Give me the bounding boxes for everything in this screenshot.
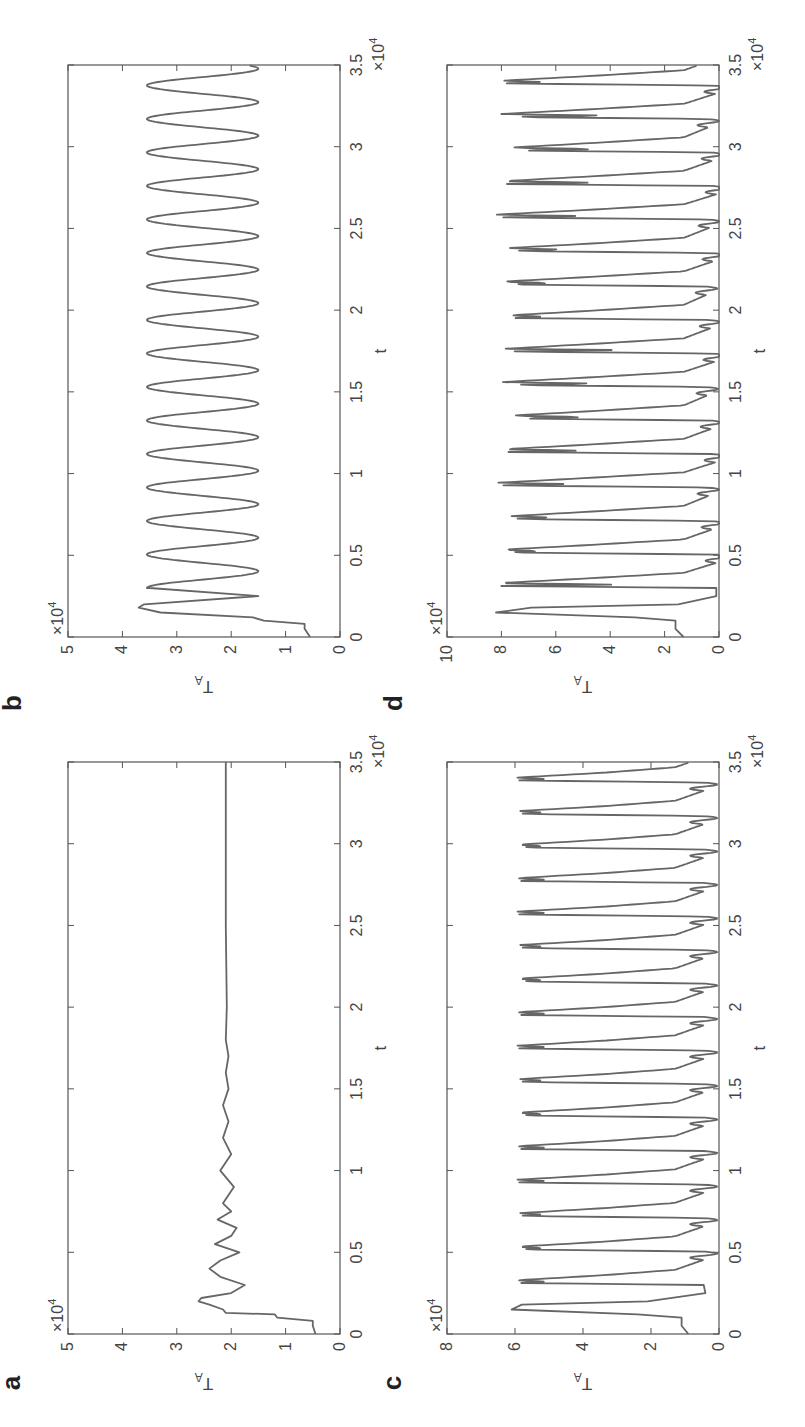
y-tick-label: 5 bbox=[59, 1342, 76, 1351]
x-tick-label: 3 bbox=[348, 839, 365, 848]
y-tick-label: 0 bbox=[331, 645, 348, 654]
chart-panel-d: 00.511.522.533.50246810×104×104tTA bbox=[447, 65, 719, 637]
data-series-line bbox=[496, 66, 719, 637]
y-tick-label: 0 bbox=[331, 1342, 348, 1351]
x-tick-label: 2 bbox=[348, 306, 365, 315]
y-tick-label: 4 bbox=[601, 645, 618, 654]
chart-panel-a: 00.511.522.533.5012345×104×104tTA bbox=[68, 762, 340, 1334]
y-tick-label: 4 bbox=[113, 645, 130, 654]
y-tick-label: 4 bbox=[113, 1342, 130, 1351]
data-series-line bbox=[512, 763, 718, 1334]
y-multiplier: ×104 bbox=[46, 602, 66, 635]
y-tick-label: 0 bbox=[710, 1342, 727, 1351]
x-tick-label: 1 bbox=[727, 469, 744, 478]
y-multiplier: ×104 bbox=[425, 602, 445, 635]
x-tick-label: 1 bbox=[727, 1166, 744, 1175]
x-multiplier: ×104 bbox=[746, 38, 766, 71]
x-multiplier: ×104 bbox=[367, 735, 387, 768]
data-series-line bbox=[139, 66, 310, 637]
plot-frame bbox=[68, 762, 340, 1334]
y-tick-label: 1 bbox=[277, 645, 294, 654]
x-tick-label: 1 bbox=[348, 1166, 365, 1175]
x-tick-label: 1.5 bbox=[727, 1078, 744, 1100]
x-axis-label: t bbox=[750, 1045, 769, 1050]
panel-label-a: a bbox=[0, 1376, 24, 1390]
x-tick-label: 2.5 bbox=[727, 914, 744, 936]
y-tick-label: 10 bbox=[438, 645, 455, 663]
y-tick-label: 6 bbox=[506, 1342, 523, 1351]
x-tick-label: 1.5 bbox=[727, 381, 744, 403]
x-tick-label: 0 bbox=[348, 632, 365, 641]
x-tick-label: 3 bbox=[727, 142, 744, 151]
x-tick-label: 0.5 bbox=[348, 544, 365, 566]
x-tick-label: 1.5 bbox=[348, 381, 365, 403]
panel-label-c: c bbox=[379, 1376, 405, 1390]
x-tick-label: 0 bbox=[727, 632, 744, 641]
x-tick-label: 3 bbox=[727, 839, 744, 848]
x-tick-label: 2 bbox=[348, 1003, 365, 1012]
x-tick-label: 2 bbox=[727, 306, 744, 315]
y-tick-label: 2 bbox=[642, 1342, 659, 1351]
x-multiplier: ×104 bbox=[367, 38, 387, 71]
line-chart-d: 00.511.522.533.50246810×104×104tTA bbox=[447, 65, 719, 637]
x-tick-label: 3.5 bbox=[348, 751, 365, 773]
y-axis-label: TA bbox=[574, 673, 592, 696]
x-tick-label: 0.5 bbox=[727, 544, 744, 566]
x-tick-label: 0 bbox=[727, 1329, 744, 1338]
line-chart-b: 00.511.522.533.5012345×104×104tTA bbox=[68, 65, 340, 637]
y-tick-label: 8 bbox=[438, 1342, 455, 1351]
x-tick-label: 3.5 bbox=[727, 751, 744, 773]
x-tick-label: 2.5 bbox=[348, 217, 365, 239]
y-tick-label: 1 bbox=[277, 1342, 294, 1351]
chart-panel-b: 00.511.522.533.5012345×104×104tTA bbox=[68, 65, 340, 637]
x-tick-label: 1.5 bbox=[348, 1078, 365, 1100]
x-tick-label: 2.5 bbox=[348, 914, 365, 936]
panel-label-b: b bbox=[0, 695, 25, 711]
y-tick-label: 6 bbox=[547, 645, 564, 654]
plot-frame bbox=[68, 65, 340, 637]
y-tick-label: 3 bbox=[168, 1342, 185, 1351]
x-tick-label: 2 bbox=[727, 1003, 744, 1012]
y-axis-label: TA bbox=[195, 673, 213, 696]
y-axis-label: TA bbox=[195, 1370, 213, 1393]
x-tick-label: 1 bbox=[348, 469, 365, 478]
y-tick-label: 2 bbox=[222, 1342, 239, 1351]
y-tick-label: 2 bbox=[656, 645, 673, 654]
x-tick-label: 3 bbox=[348, 142, 365, 151]
y-multiplier: ×104 bbox=[46, 1299, 66, 1332]
y-axis-label: TA bbox=[574, 1370, 592, 1393]
x-tick-label: 3.5 bbox=[348, 54, 365, 76]
line-chart-a: 00.511.522.533.5012345×104×104tTA bbox=[68, 762, 340, 1334]
x-axis-label: t bbox=[750, 348, 769, 353]
line-chart-c: 00.511.522.533.502468×104×104tTA bbox=[447, 762, 719, 1334]
x-tick-label: 0.5 bbox=[348, 1241, 365, 1263]
x-tick-label: 0 bbox=[348, 1329, 365, 1338]
data-series-line bbox=[199, 762, 316, 1334]
y-tick-label: 5 bbox=[59, 645, 76, 654]
x-tick-label: 2.5 bbox=[727, 217, 744, 239]
y-tick-label: 3 bbox=[168, 645, 185, 654]
x-multiplier: ×104 bbox=[746, 735, 766, 768]
y-tick-label: 8 bbox=[492, 645, 509, 654]
x-tick-label: 0.5 bbox=[727, 1241, 744, 1263]
chart-panel-c: 00.511.522.533.502468×104×104tTA bbox=[447, 762, 719, 1334]
panel-label-d: d bbox=[380, 695, 406, 711]
y-tick-label: 2 bbox=[222, 645, 239, 654]
y-tick-label: 4 bbox=[574, 1342, 591, 1351]
y-multiplier: ×104 bbox=[425, 1299, 445, 1332]
x-axis-label: t bbox=[371, 1045, 390, 1050]
y-tick-label: 0 bbox=[710, 645, 727, 654]
x-axis-label: t bbox=[371, 348, 390, 353]
x-tick-label: 3.5 bbox=[727, 54, 744, 76]
